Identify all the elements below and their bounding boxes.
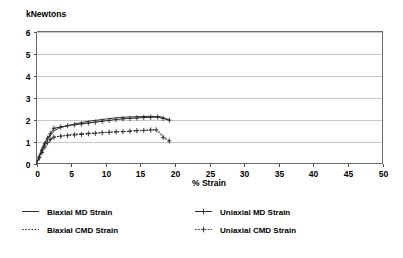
x-tick-label: 0 [35, 169, 40, 179]
legend-item-label: Uniaxial MD Strain [220, 208, 290, 217]
legend-item-label: Uniaxial CMD Strain [220, 226, 296, 235]
x-tick-label: 5 [69, 169, 74, 179]
x-tick-label: 50 [379, 169, 389, 179]
y-axis-title: kNewtons [26, 9, 66, 19]
x-tick-label: 30 [240, 169, 250, 179]
x-tick-label: 45 [344, 169, 354, 179]
y-tick-label: 1 [26, 138, 31, 148]
y-tick-label: 4 [26, 72, 31, 82]
legend-item-label: Biaxial CMD Strain [47, 226, 118, 235]
chart-container: kNewtons 0123456 05101520253035404550 % … [0, 0, 403, 258]
y-tick-label: 2 [26, 116, 31, 126]
x-tick-label: 10 [102, 169, 112, 179]
x-tick-label: 20 [171, 169, 181, 179]
strain-force-line-chart: kNewtons 0123456 05101520253035404550 % … [0, 0, 403, 258]
y-tick-label: 0 [26, 160, 31, 170]
y-tick-label: 5 [26, 50, 31, 60]
x-tick-label: 15 [136, 169, 146, 179]
legend-item-label: Biaxial MD Strain [47, 208, 112, 217]
x-tick-label: 35 [275, 169, 285, 179]
x-axis-title: % Strain [192, 178, 226, 188]
y-tick-label: 6 [26, 28, 31, 38]
x-tick-label: 40 [309, 169, 319, 179]
x-tick-label: 25 [206, 169, 216, 179]
y-tick-label: 3 [26, 94, 31, 104]
